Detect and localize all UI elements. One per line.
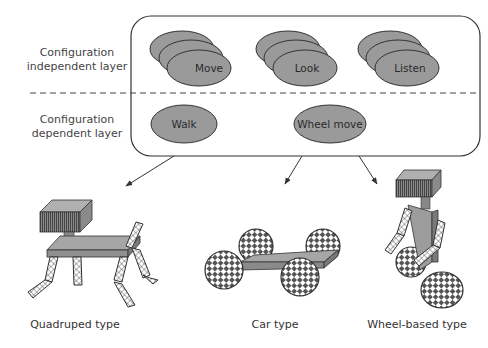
svg-text:independent layer: independent layer — [27, 60, 128, 73]
node-look: Look — [256, 31, 337, 86]
svg-text:Wheel move: Wheel move — [297, 118, 363, 130]
caption-wheel-based: Wheel-based type — [367, 318, 467, 331]
svg-text:Walk: Walk — [171, 118, 197, 130]
caption-car: Car type — [251, 318, 298, 331]
node-move: Move — [150, 31, 231, 86]
arrow-to-car — [285, 156, 302, 184]
caption-quadruped: Quadruped type — [30, 318, 120, 331]
svg-text:Move: Move — [195, 62, 223, 74]
independent-layer-label: Configuration independent layer — [27, 46, 128, 73]
dependent-layer-label: Configuration dependent layer — [32, 113, 123, 140]
car-robot-illustration — [205, 229, 340, 296]
diagram-canvas: Configuration independent layer Configur… — [0, 0, 488, 348]
svg-text:Configuration: Configuration — [40, 46, 115, 59]
svg-text:Look: Look — [295, 62, 321, 74]
svg-text:dependent layer: dependent layer — [32, 127, 123, 140]
node-wheel-move: Wheel move — [294, 105, 366, 143]
svg-text:Listen: Listen — [394, 62, 425, 74]
arrow-to-quadruped — [126, 156, 174, 186]
wheel-based-robot-illustration — [385, 170, 463, 308]
svg-text:Configuration: Configuration — [40, 113, 115, 126]
quadruped-robot-illustration — [28, 200, 158, 307]
arrow-to-wheel-based — [359, 156, 377, 184]
node-walk: Walk — [151, 105, 217, 143]
node-listen: Listen — [358, 31, 439, 86]
